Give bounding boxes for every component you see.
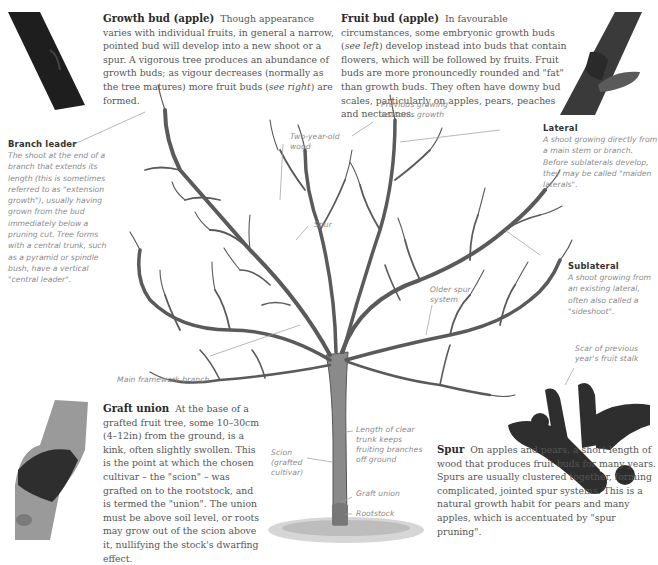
label-clear-trunk: Length of clear trunk keeps fruiting bra… xyxy=(356,425,426,465)
fruit-bud-title: Fruit bud (apple) xyxy=(341,12,439,24)
spur-description: Spur On apples and pears, a short length… xyxy=(437,443,658,538)
spur-text: On apples and pears, a short length of w… xyxy=(437,444,656,537)
fruit-bud-photo xyxy=(560,0,658,120)
fruit-bud-ref: see left xyxy=(345,40,379,51)
lateral-callout: Lateral A shoot growing directly from a … xyxy=(543,123,658,190)
branch-leader-title: Branch leader xyxy=(8,139,108,150)
label-spur: Spur xyxy=(314,220,332,230)
branch-leader-text: The shoot at the end of a branch that ex… xyxy=(8,150,108,286)
label-scion: Scion (grafted cultivar) xyxy=(271,448,313,478)
sublateral-callout: Sublateral A shoot growing from an exist… xyxy=(568,261,658,317)
graft-union-text: At the base of a grafted fruit tree, som… xyxy=(103,403,259,564)
lateral-title: Lateral xyxy=(543,123,658,134)
label-two-year-old-wood: Two-year-old wood xyxy=(290,132,345,152)
growth-bud-title: Growth bud (apple) xyxy=(103,12,214,24)
label-graft-union: Graft union xyxy=(356,489,400,499)
spur-title: Spur xyxy=(437,443,464,455)
growth-bud-photo xyxy=(0,0,110,110)
growth-bud-description: Growth bud (apple) Though appearance var… xyxy=(103,12,339,107)
label-older-spur-system: Older spur system xyxy=(430,285,482,305)
label-main-framework-branch: Main framework branch xyxy=(117,375,227,385)
sublateral-text: A shoot growing from an existing lateral… xyxy=(568,272,658,317)
label-rootstock: Rootstock xyxy=(356,509,395,519)
branch-leader-callout: Branch leader The shoot at the end of a … xyxy=(8,139,108,286)
lateral-text: A shoot growing directly from a main ste… xyxy=(543,134,658,190)
graft-union-description: Graft union At the base of a grafted fru… xyxy=(103,402,263,565)
label-fruit-stalk-scar: Scar of previous year's fruit stalk xyxy=(575,344,658,364)
graft-union-title: Graft union xyxy=(103,402,169,414)
growth-bud-ref: see right xyxy=(269,81,311,92)
sublateral-title: Sublateral xyxy=(568,261,658,272)
graft-union-photo xyxy=(0,390,100,548)
label-previous-growth: Previous growing season's growth xyxy=(381,100,461,120)
